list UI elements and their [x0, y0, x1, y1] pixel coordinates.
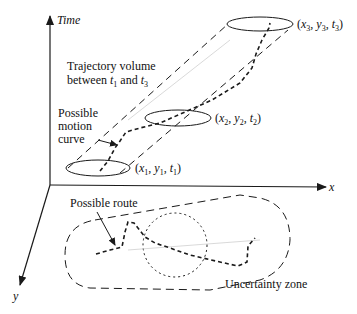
trajectory-volume-label-line1: Trajectory volume — [67, 59, 156, 73]
possible-route-label: Possible route — [70, 196, 138, 210]
motion-curve-label-line3: curve — [58, 132, 85, 146]
trajectory-diagram: Time x y Trajectory volume between t1 an… — [0, 0, 357, 314]
x-axis — [50, 185, 326, 187]
y-axis — [20, 185, 50, 285]
ellipse-t3 — [227, 17, 293, 31]
y-axis-label: y — [12, 289, 19, 303]
motion-curve-label-line1: Possible — [58, 106, 98, 120]
point-label-t2: (x2, y2, t2) — [215, 111, 261, 127]
point-label-t1: (x1, y1, t1) — [135, 161, 181, 177]
motion-curve — [100, 23, 270, 171]
trajectory-volume — [66, 17, 293, 176]
possible-route — [96, 222, 255, 266]
motion-curve-label-line2: motion — [58, 119, 92, 133]
diagram-svg: Time x y Trajectory volume between t1 an… — [0, 0, 357, 314]
time-axis-label: Time — [57, 13, 81, 27]
motion-curve-pointer — [98, 140, 117, 145]
ellipse-t1 — [66, 160, 130, 176]
axes — [20, 16, 326, 285]
x-axis-label: x — [328, 180, 335, 194]
uncertainty-zone-label: Uncertainty zone — [225, 277, 307, 291]
point-label-t3: (x3, y3, t3) — [297, 17, 343, 33]
trajectory-volume-label-line2: between t1 and t3 — [67, 73, 148, 89]
